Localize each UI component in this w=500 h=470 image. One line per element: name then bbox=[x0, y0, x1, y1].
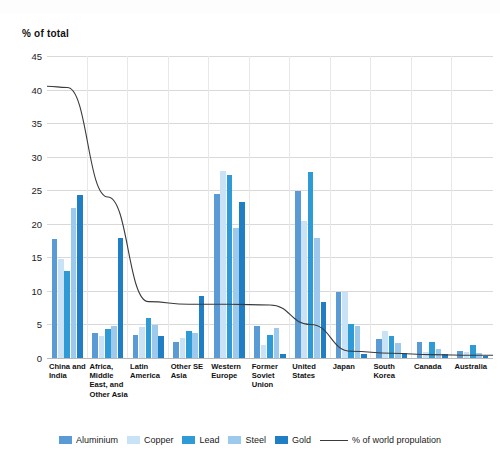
y-axis-tick-label: 5 bbox=[14, 319, 42, 330]
x-axis-category-labels: China and IndiaAfrica, Middle East, and … bbox=[47, 362, 493, 420]
legend-label: Copper bbox=[144, 435, 174, 445]
legend-swatch bbox=[228, 436, 241, 444]
legend-swatch bbox=[59, 436, 72, 444]
x-axis-category-label: Japan bbox=[331, 362, 372, 420]
x-axis-category-label: Former Soviet Union bbox=[250, 362, 291, 420]
legend-item[interactable]: Lead bbox=[182, 435, 219, 445]
legend-line-marker bbox=[320, 440, 348, 441]
page-top-margin bbox=[0, 0, 500, 14]
legend-item[interactable]: Steel bbox=[228, 435, 266, 445]
legend-label: Gold bbox=[292, 435, 311, 445]
y-axis-tick-label: 30 bbox=[14, 151, 42, 162]
legend-item[interactable]: Aluminium bbox=[59, 435, 118, 445]
y-axis-tick-label: 20 bbox=[14, 218, 42, 229]
y-axis-tick-label: 40 bbox=[14, 84, 42, 95]
y-axis-tick-label: 10 bbox=[14, 285, 42, 296]
legend-item[interactable]: % of world propulation bbox=[320, 435, 441, 445]
x-axis-category-label: Other SE Asia bbox=[169, 362, 210, 420]
legend-label: Lead bbox=[199, 435, 219, 445]
y-axis-tick-labels: 051015202530354045 bbox=[8, 56, 42, 358]
y-axis-tick-label: 0 bbox=[14, 353, 42, 364]
y-axis-tick-label: 25 bbox=[14, 185, 42, 196]
x-axis-category-label: United States bbox=[290, 362, 331, 420]
y-axis-tick-label: 45 bbox=[14, 51, 42, 62]
gridline bbox=[47, 358, 493, 359]
legend-label: Steel bbox=[245, 435, 266, 445]
line-path bbox=[47, 86, 493, 355]
x-axis-category-label: Latin America bbox=[128, 362, 169, 420]
legend-item[interactable]: Copper bbox=[127, 435, 174, 445]
chart-container: % of total 051015202530354045 China and … bbox=[0, 0, 500, 470]
legend-label: Aluminium bbox=[76, 435, 118, 445]
world-population-line bbox=[47, 56, 493, 358]
x-axis-category-label: Canada bbox=[412, 362, 453, 420]
y-axis-title: % of total bbox=[22, 28, 69, 39]
x-axis-category-label: China and India bbox=[47, 362, 88, 420]
x-axis-category-label: Western Europe bbox=[209, 362, 250, 420]
y-axis-tick-label: 15 bbox=[14, 252, 42, 263]
x-axis-category-label: South Korea bbox=[371, 362, 412, 420]
legend-swatch bbox=[127, 436, 140, 444]
legend-swatch bbox=[275, 436, 288, 444]
legend-swatch bbox=[182, 436, 195, 444]
legend-label: % of world propulation bbox=[352, 435, 441, 445]
y-axis-tick-label: 35 bbox=[14, 118, 42, 129]
x-axis-category-label: Australia bbox=[452, 362, 493, 420]
x-axis-category-label: Africa, Middle East, and Other Asia bbox=[88, 362, 129, 420]
chart-legend: AluminiumCopperLeadSteelGold% of world p… bbox=[0, 428, 500, 452]
legend-item[interactable]: Gold bbox=[275, 435, 311, 445]
